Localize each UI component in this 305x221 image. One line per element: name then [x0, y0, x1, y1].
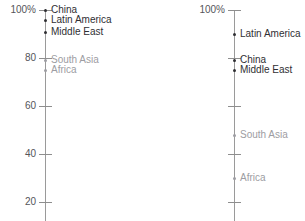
data-point	[44, 69, 47, 72]
chart-panel-left: 100%80604020 ChinaLatin AmericaMiddle Ea…	[0, 0, 152, 221]
series-label: Africa	[51, 65, 77, 75]
axis-tick	[39, 106, 52, 107]
data-point	[44, 59, 47, 62]
series-label: Middle East	[51, 27, 103, 37]
data-point	[233, 59, 236, 62]
chart-panel-right: 100% Latin AmericaChinaMiddle EastSouth …	[152, 0, 305, 221]
data-point	[44, 19, 47, 22]
axis-tick	[228, 106, 241, 107]
axis-line-left	[45, 9, 46, 221]
axis-tick-label: 40	[0, 149, 36, 159]
data-point	[233, 177, 236, 180]
axis-tick	[228, 154, 241, 155]
data-point	[233, 33, 236, 36]
series-label: Latin America	[51, 15, 112, 25]
series-label: Africa	[240, 173, 266, 183]
series-label: Latin America	[240, 29, 301, 39]
axis-line-right	[234, 10, 235, 221]
data-point	[44, 31, 47, 34]
axis-tick-label: 60	[0, 101, 36, 111]
axis-tick	[39, 154, 52, 155]
axis-tick-label: 20	[0, 197, 36, 207]
data-point	[44, 9, 47, 12]
axis-tick	[228, 10, 241, 11]
series-label: South Asia	[240, 130, 288, 140]
data-point	[233, 134, 236, 137]
series-label: Middle East	[240, 65, 292, 75]
data-point	[233, 69, 236, 72]
axis-tick-label: 100%	[189, 5, 225, 15]
axis-tick-label: 80	[0, 53, 36, 63]
slope-chart: 100%80604020 ChinaLatin AmericaMiddle Ea…	[0, 0, 305, 221]
axis-tick	[228, 202, 241, 203]
axis-tick-label: 100%	[0, 5, 36, 15]
axis-tick	[39, 202, 52, 203]
